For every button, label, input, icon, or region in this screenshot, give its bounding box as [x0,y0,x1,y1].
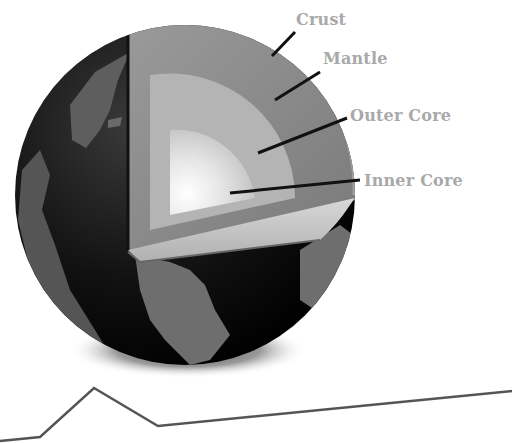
outer-core-label: Outer Core [350,106,451,125]
crust-label: Crust [296,10,346,29]
inner-core-label: Inner Core [364,171,463,190]
earth-layers-diagram: Crust Mantle Outer Core Inner Core [0,0,512,443]
mantle-label: Mantle [323,49,388,68]
ground-line [0,388,512,441]
crust-arrow [272,32,295,56]
globe-illustration [0,0,512,443]
